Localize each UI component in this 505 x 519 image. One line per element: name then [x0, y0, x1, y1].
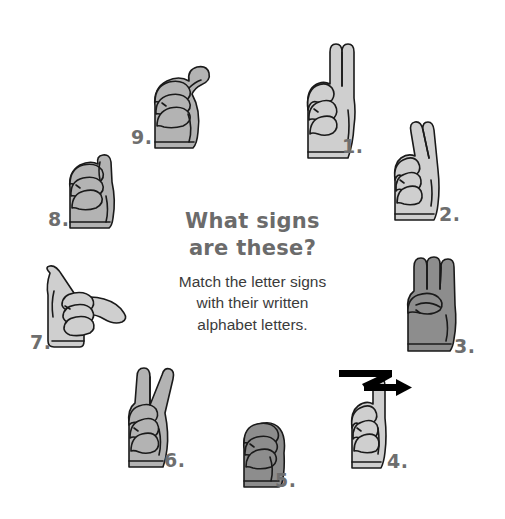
sign-number-9: 9.: [131, 128, 152, 147]
sign-number-1: 1.: [342, 137, 363, 156]
instructions-line-3: alphabet letters.: [140, 314, 365, 335]
hand-sign-1[interactable]: 1.: [292, 40, 367, 165]
sign-number-2: 2.: [439, 205, 460, 224]
sign-number-7: 7.: [30, 333, 51, 352]
asl-hand-sign-x-icon: [60, 152, 128, 234]
hand-sign-7[interactable]: 7.: [34, 265, 132, 353]
hand-sign-9[interactable]: 9.: [145, 62, 221, 154]
page-title-line-1: What signs: [140, 208, 365, 235]
sign-number-3: 3.: [454, 337, 475, 356]
hand-sign-6[interactable]: 6.: [117, 365, 189, 473]
sign-language-puzzle-canvas: 1. 2.: [0, 0, 505, 519]
sign-number-5: 5.: [275, 471, 296, 490]
instructions-text: Match the letter signs with their writte…: [140, 271, 365, 335]
center-text-block: What signs are these? Match the letter s…: [140, 208, 365, 335]
sign-number-6: 6.: [164, 451, 185, 470]
hand-sign-8[interactable]: 8.: [60, 152, 128, 234]
sign-number-4: 4.: [387, 452, 408, 471]
sign-number-8: 8.: [48, 210, 69, 229]
hand-sign-2[interactable]: 2.: [381, 118, 453, 226]
hand-sign-5[interactable]: 5.: [234, 413, 296, 493]
page-title-line-2: are these?: [140, 235, 365, 262]
instructions-line-1: Match the letter signs: [140, 271, 365, 292]
hand-sign-3[interactable]: 3.: [396, 255, 474, 357]
instructions-line-2: with their written: [140, 292, 365, 313]
hand-sign-4[interactable]: 4.: [336, 366, 418, 474]
asl-hand-sign-t-icon: [145, 62, 221, 154]
